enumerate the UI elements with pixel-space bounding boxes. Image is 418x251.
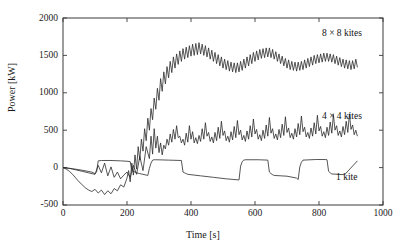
y-tick-1500: 1500 xyxy=(18,50,58,60)
y-axis-label: Power [kW] xyxy=(6,53,17,123)
x-axis-label: Time [s] xyxy=(186,229,220,240)
x-tick-0: 0 xyxy=(43,208,83,218)
y-tick-500: 500 xyxy=(18,125,58,135)
y-tick-1000: 1000 xyxy=(18,87,58,97)
x-tick-400: 400 xyxy=(171,208,211,218)
power-time-chart: Power [kW] Time [s] 2000 1500 1000 500 0… xyxy=(0,0,418,251)
x-tick-600: 600 xyxy=(235,208,275,218)
series-label-8x8: 8 × 8 kites xyxy=(322,28,362,38)
x-tick-800: 800 xyxy=(299,208,339,218)
x-tick-1000: 1000 xyxy=(363,208,403,218)
y-tick-2000: 2000 xyxy=(18,13,58,23)
series-label-4x4: 4 × 4 kites xyxy=(322,111,362,121)
x-tick-200: 200 xyxy=(107,208,147,218)
series-label-1kite: 1 kite xyxy=(336,172,357,182)
y-tick-0: 0 xyxy=(18,162,58,172)
